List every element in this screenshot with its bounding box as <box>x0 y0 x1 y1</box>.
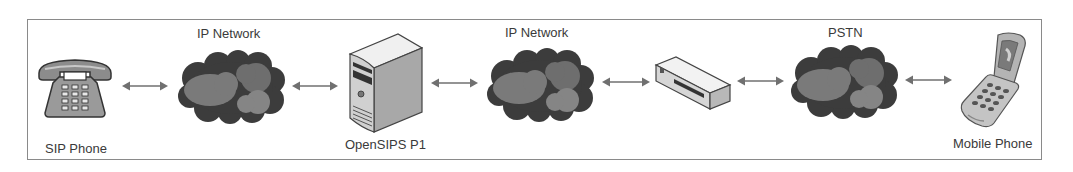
pstn-label: PSTN <box>828 25 863 40</box>
mobile-phone-icon <box>958 31 1030 129</box>
cloud-icon <box>485 48 595 122</box>
cloud-icon <box>789 45 899 119</box>
opensips-p1-label: OpenSIPS P1 <box>345 137 426 152</box>
bidirectional-arrow <box>905 74 952 86</box>
bidirectional-arrow <box>292 80 338 92</box>
server-icon <box>346 32 424 134</box>
bidirectional-arrow <box>737 75 784 87</box>
mobile-phone-label: Mobile Phone <box>953 136 1033 151</box>
sip-phone-label: SIP Phone <box>45 141 107 156</box>
bidirectional-arrow <box>602 76 650 88</box>
desk-phone-icon <box>35 55 115 121</box>
bidirectional-arrow <box>122 80 168 92</box>
ip-network-1-label: IP Network <box>197 26 260 41</box>
ip-network-2-label: IP Network <box>505 25 568 40</box>
gateway-box-icon <box>654 55 732 111</box>
cloud-icon <box>176 50 286 124</box>
bidirectional-arrow <box>431 77 478 89</box>
